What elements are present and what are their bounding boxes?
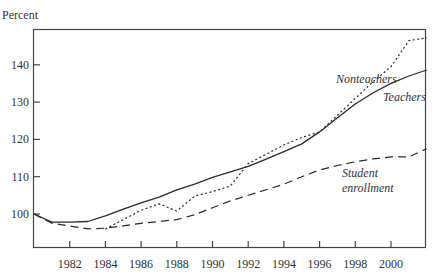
series-teachers — [34, 70, 427, 222]
y-tick-label: 130 — [11, 95, 29, 109]
y-tick-label: 100 — [11, 207, 29, 221]
y-tick-label: 120 — [11, 132, 29, 146]
annotation-enrollment: enrollment — [342, 181, 394, 195]
x-tick-label: 1996 — [308, 257, 332, 271]
x-tick-label: 1988 — [165, 257, 189, 271]
line-chart: Percent 100110120130140 1982198419861988… — [0, 0, 439, 279]
x-tick-label: 1990 — [201, 257, 225, 271]
x-tick-label: 1998 — [343, 257, 367, 271]
y-axis-label: Percent — [2, 8, 39, 22]
x-tick-label: 2000 — [379, 257, 403, 271]
plot-frame — [34, 30, 426, 248]
x-tick-label: 1986 — [129, 257, 153, 271]
y-axis: 100110120130140 — [11, 58, 40, 221]
x-tick-label: 1984 — [93, 257, 117, 271]
annotation-nonteachers: Nonteachers — [335, 72, 397, 86]
y-tick-label: 140 — [11, 58, 29, 72]
annotation-teachers: Teachers — [383, 90, 426, 104]
series-lines — [34, 38, 427, 229]
x-tick-label: 1982 — [58, 257, 82, 271]
y-tick-label: 110 — [11, 170, 29, 184]
annotation-student: Student — [342, 166, 379, 180]
x-tick-label: 1992 — [236, 257, 260, 271]
x-axis: 1982198419861988199019921994199619982000 — [58, 241, 403, 271]
series-nonteachers — [105, 38, 426, 229]
x-tick-label: 1994 — [272, 257, 296, 271]
